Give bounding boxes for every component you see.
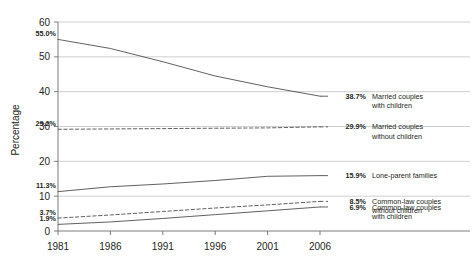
x-tick-label: 1996 [204,241,227,252]
y-tick-label: 20 [39,156,51,167]
y-tick-label: 10 [39,191,51,202]
line-chart: 0102030405060 198119861991199620012006 5… [0,0,473,261]
series-end-value: 6.9% [350,203,367,212]
x-tick-label: 2006 [309,241,332,252]
series-lines-group [58,39,328,224]
series-name: Common-law couples [372,203,442,212]
y-axis-title: Percentage [10,104,21,156]
series-start-value: 29.2% [36,119,57,128]
series-line [58,39,320,96]
y-tick-label: 60 [39,17,51,28]
series-name-line2: without children [371,132,422,141]
end-value-labels-group: 38.7%29.9%15.9%8.5%6.9% [346,92,367,212]
y-tick-label: 0 [44,226,50,237]
series-line [58,176,320,192]
series-name-line2: with children [371,101,412,110]
x-tick-label: 1991 [152,241,175,252]
x-tick-label: 1986 [99,241,122,252]
x-tick-marks-group [58,231,320,235]
series-start-value: 1.9% [40,214,57,223]
x-tick-label: 1981 [47,241,70,252]
x-tick-label: 2001 [256,241,279,252]
series-end-value: 15.9% [346,171,367,180]
y-tick-label: 50 [39,51,51,62]
x-tick-labels-group: 198119861991199620012006 [47,241,332,252]
series-name-line2: with children [371,212,412,221]
series-name: Married couples [372,122,424,131]
series-start-value: 11.3% [36,181,57,190]
chart-container: 0102030405060 198119861991199620012006 5… [0,0,473,261]
series-end-value: 38.7% [346,92,367,101]
series-name: Married couples [372,92,424,101]
series-end-value: 29.9% [346,122,367,131]
series-name-labels-group: Married coupleswith childrenMarried coup… [371,92,442,221]
series-line [58,127,320,129]
y-tick-label: 40 [39,86,51,97]
series-start-value: 55.0% [36,29,57,38]
series-name: Lone-parent families [372,171,438,180]
